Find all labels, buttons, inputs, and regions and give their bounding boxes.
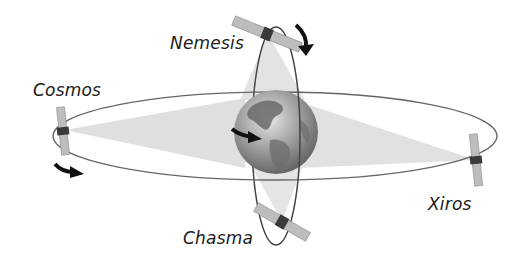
arrow-cosmos-icon [55, 164, 84, 178]
label-chasma: Chasma [183, 228, 253, 248]
satellite-cosmos-icon [55, 107, 72, 156]
label-cosmos: Cosmos [33, 80, 101, 100]
cosmos-beam [65, 98, 245, 168]
xiros-beam [300, 102, 476, 168]
satellite-orbit-diagram: Nemesis Cosmos Xiros Chasma [0, 0, 516, 263]
earth-globe [234, 90, 318, 174]
label-xiros: Xiros [428, 194, 472, 214]
label-nemesis: Nemesis [170, 33, 244, 53]
